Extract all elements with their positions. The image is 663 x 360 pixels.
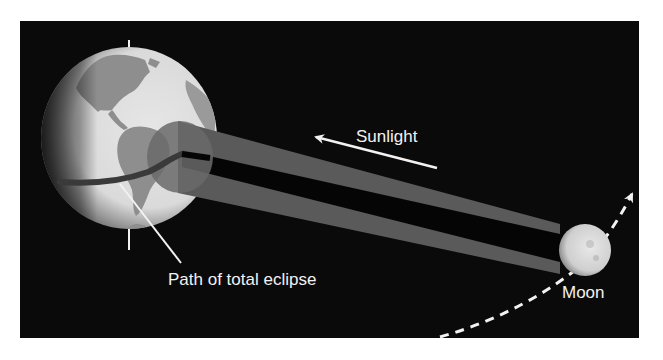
eclipse-diagram: Sunlight Path of total eclipse Moon — [0, 0, 663, 360]
sunlight-label: Sunlight — [356, 127, 418, 146]
moon-label: Moon — [562, 283, 605, 302]
path-of-total-eclipse-label: Path of total eclipse — [168, 270, 316, 289]
umbra-inner-link — [182, 154, 210, 158]
moon — [559, 224, 611, 276]
